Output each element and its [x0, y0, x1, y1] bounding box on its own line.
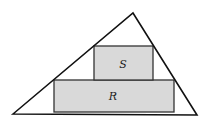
diagram-canvas: S R: [0, 0, 211, 121]
label-r: R: [108, 90, 117, 103]
label-s: S: [119, 58, 127, 71]
